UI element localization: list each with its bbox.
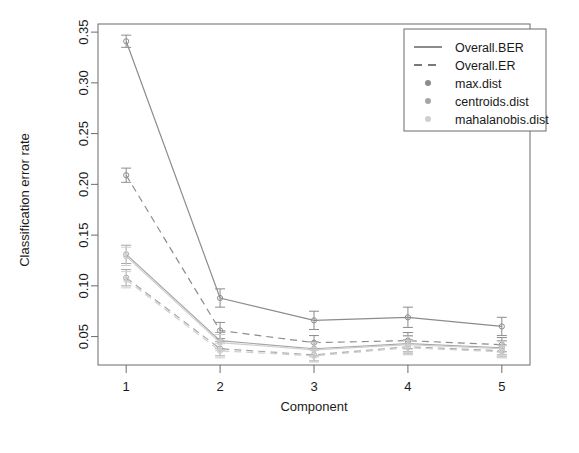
x-tick-label: 2 — [216, 379, 223, 394]
legend-label: Overall.BER — [455, 41, 524, 55]
x-tick-label: 3 — [310, 379, 317, 394]
y-tick-label: 0.20 — [76, 172, 91, 197]
y-tick-label: 0.10 — [76, 273, 91, 298]
legend-swatch-dot — [425, 98, 431, 104]
chart-legend: Overall.BEROverall.ERmax.distcentroids.d… — [404, 29, 549, 131]
y-tick-label: 0.15 — [76, 222, 91, 247]
x-tick-label: 4 — [404, 379, 411, 394]
x-tick-label: 5 — [498, 379, 505, 394]
legend-swatch-dot — [425, 116, 431, 122]
plot-container: 0.050.100.150.200.250.300.35 12345 Compo… — [0, 0, 579, 453]
y-tick-label: 0.35 — [76, 19, 91, 44]
y-tick-label: 0.05 — [76, 324, 91, 349]
y-tick-label: 0.25 — [76, 121, 91, 146]
legend-label: Overall.ER — [455, 59, 515, 73]
legend-swatch-dot — [425, 80, 431, 86]
x-tick-label: 1 — [123, 379, 130, 394]
classification-error-rate-chart: 0.050.100.150.200.250.300.35 12345 Compo… — [0, 0, 579, 453]
legend-label: centroids.dist — [455, 95, 529, 109]
legend-label: mahalanobis.dist — [455, 113, 549, 127]
y-tick-label: 0.30 — [76, 70, 91, 95]
legend-label: max.dist — [455, 77, 502, 91]
y-axis-title: Classification error rate — [17, 133, 32, 267]
x-axis-title: Component — [280, 399, 348, 414]
